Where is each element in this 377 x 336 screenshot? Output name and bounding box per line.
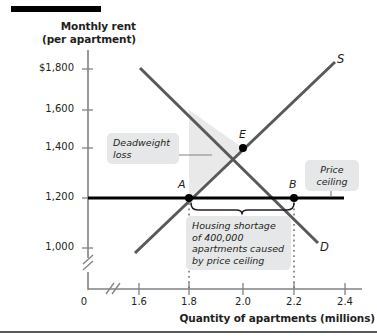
point-label-B: B <box>289 178 297 191</box>
y-axis-title-line1: Monthly rent <box>6 20 136 33</box>
figure-container: Monthly rent (per apartment) Quantity of… <box>0 0 377 336</box>
housing-shortage-callout: Housing shortage of 400,000 apartments c… <box>186 216 291 270</box>
x-tick-label-2-4: 2.4 <box>325 296 365 307</box>
point-label-A: A <box>178 178 186 191</box>
axis-origin-label: 0 <box>64 296 104 307</box>
supply-curve-label: S <box>337 52 344 66</box>
housing-shortage-callout-line3: apartments caused <box>192 243 285 255</box>
demand-curve-label: D <box>320 240 329 254</box>
y-tick-label-1600: 1,600 <box>12 103 74 114</box>
x-tick-label-1-8: 1.8 <box>169 296 209 307</box>
y-tick-label-1000: 1,000 <box>12 241 74 252</box>
point-B-marker <box>290 194 298 202</box>
y-axis-title: Monthly rent (per apartment) <box>6 20 136 45</box>
housing-shortage-callout-line4: by price ceiling <box>192 255 285 267</box>
price-ceiling-callout-line2: ceiling <box>311 176 353 188</box>
point-E-marker <box>239 144 247 152</box>
y-tick-label-1800: $1,800 <box>12 62 74 73</box>
x-tick-label-2-0: 2.0 <box>223 296 263 307</box>
y-axis-title-line2: (per apartment) <box>6 33 136 46</box>
x-axis-title: Quantity of apartments (millions) <box>150 312 375 324</box>
x-tick-label-1-6: 1.6 <box>119 296 159 307</box>
point-A-marker <box>185 194 193 202</box>
housing-shortage-callout-line2: of 400,000 <box>192 232 285 244</box>
deadweight-loss-callout: Deadweight loss <box>107 133 179 164</box>
deadweight-loss-callout-line1: Deadweight <box>113 137 173 149</box>
y-tick-label-1400: 1,400 <box>12 141 74 152</box>
price-ceiling-callout-line1: Price <box>311 164 353 176</box>
y-tick-label-1200: 1,200 <box>12 191 74 202</box>
deadweight-loss-callout-line2: loss <box>113 149 173 161</box>
price-ceiling-callout: Price ceiling <box>305 160 359 191</box>
x-tick-label-2-2: 2.2 <box>274 296 314 307</box>
point-label-E: E <box>239 128 246 141</box>
housing-shortage-callout-line1: Housing shortage <box>192 220 285 232</box>
